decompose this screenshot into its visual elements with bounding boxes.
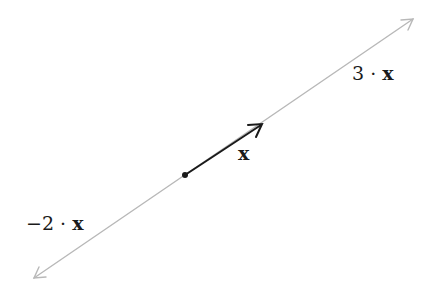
label-three-x-coef: 3 · <box>352 62 382 84</box>
origin-point <box>182 172 188 178</box>
vector-span-diagram <box>0 0 441 291</box>
label-x: x <box>238 142 249 164</box>
label-neg-two-x: −2 · x <box>26 212 83 234</box>
label-neg-two-x-coef: −2 · <box>26 212 72 234</box>
vector-x <box>185 124 262 175</box>
label-three-x: 3 · x <box>352 62 394 84</box>
label-neg-two-x-var: x <box>72 212 83 234</box>
label-three-x-var: x <box>382 62 393 84</box>
